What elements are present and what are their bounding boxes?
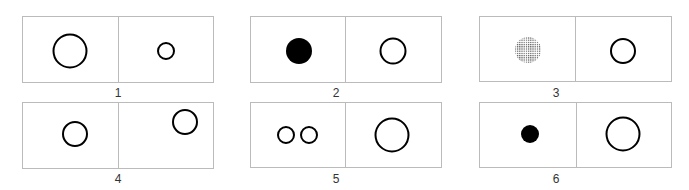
panel-5: 5 xyxy=(251,103,442,187)
panel-4: 4 xyxy=(23,103,214,187)
open-circle-left xyxy=(63,122,87,146)
figure-canvas: 1 2 3 4 5 6 xyxy=(0,0,689,190)
panel-4-label: 4 xyxy=(115,172,122,186)
small-open-circle xyxy=(158,43,174,59)
small-filled-circle xyxy=(521,125,539,143)
open-circle xyxy=(611,39,635,63)
panel-1: 1 xyxy=(23,17,214,101)
panel-3-label: 3 xyxy=(553,86,560,100)
panel-6-frame xyxy=(480,103,672,168)
panel-5-label: 5 xyxy=(333,172,340,186)
open-circle-right-raised xyxy=(173,110,197,134)
panel-1-label: 1 xyxy=(115,86,122,100)
panel-6-label: 6 xyxy=(553,172,560,186)
large-open-circle xyxy=(54,35,87,68)
open-circle xyxy=(381,39,406,64)
large-open-circle xyxy=(376,119,409,152)
filled-circle xyxy=(286,38,312,64)
panel-6: 6 xyxy=(480,103,672,187)
dotted-circle xyxy=(515,37,541,63)
small-open-circle-b xyxy=(301,127,317,143)
panel-3: 3 xyxy=(480,17,672,101)
panel-2: 2 xyxy=(251,17,442,101)
large-open-circle xyxy=(607,118,640,151)
panel-2-label: 2 xyxy=(333,86,340,100)
small-open-circle-a xyxy=(278,127,294,143)
